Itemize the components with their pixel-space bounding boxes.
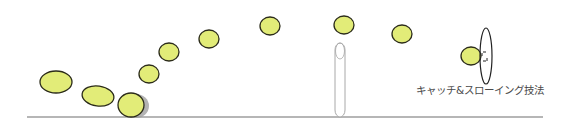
catch-racket-icon	[480, 28, 492, 84]
ball-icon	[461, 47, 481, 65]
diagram-svg	[0, 0, 566, 125]
ball-icon	[260, 17, 280, 35]
ball-icon	[40, 71, 72, 93]
ball-icon	[392, 25, 412, 43]
ball-trajectory	[40, 16, 481, 118]
ball-icon	[159, 43, 179, 61]
ball-icon	[118, 93, 144, 117]
ball-icon	[81, 84, 115, 108]
ball-icon	[199, 30, 219, 48]
ball-icon	[334, 16, 354, 34]
diagram-caption: キャッチ&スローイング技法	[416, 82, 544, 97]
standing-pole	[335, 43, 345, 117]
ball-icon	[139, 65, 159, 83]
diagram-canvas: キャッチ&スローイング技法	[0, 0, 566, 125]
